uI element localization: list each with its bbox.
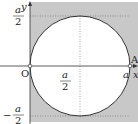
point-a-label: A	[130, 54, 138, 65]
y-bottom-denominator: 2	[15, 115, 21, 124]
circle-square-diagram: y x O A a 2 − a 2 a 2 a	[0, 0, 138, 124]
x-mid-numerator: a	[62, 69, 68, 80]
y-bottom-sign: −	[3, 110, 11, 121]
y-top-numerator: a	[15, 4, 21, 15]
y-axis-label: y	[20, 1, 27, 12]
y-bottom-numerator: a	[15, 103, 21, 114]
x-axis-label: x	[133, 69, 138, 80]
x-right-label: a	[123, 69, 129, 80]
shaded-region-bottom	[30, 116, 138, 122]
shaded-region-top	[30, 2, 138, 16]
y-top-denominator: 2	[15, 16, 21, 27]
origin-label: O	[21, 68, 29, 79]
x-mid-denominator: 2	[62, 81, 68, 92]
